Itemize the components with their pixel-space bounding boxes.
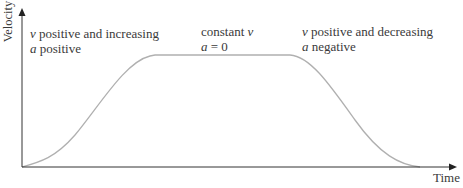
y-axis-arrow-icon [19,8,26,16]
x-axis-label: Time [433,170,460,185]
velocity-curve [22,55,420,167]
annotation-increasing: v positive and increasing a positive [30,26,159,56]
y-axis-label: Velocity [1,0,16,44]
annotation-constant: constant v a = 0 [201,24,253,54]
annotation-decreasing: v positive and decreasing a negative [302,24,433,54]
